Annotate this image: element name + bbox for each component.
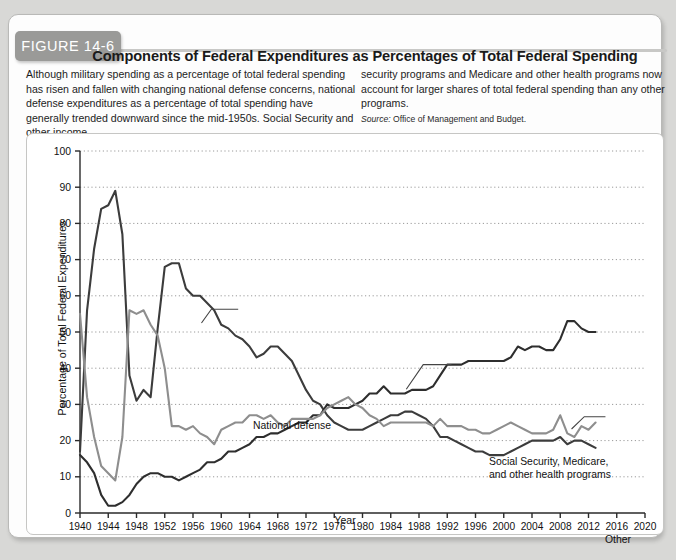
source-text: Office of Management and Budget.	[393, 114, 526, 124]
svg-text:90: 90	[59, 182, 71, 193]
source-label: Source:	[361, 114, 391, 124]
figure-page: FIGURE 14-6 Components of Federal Expend…	[0, 0, 676, 560]
annotation-other: Other	[605, 534, 631, 547]
svg-text:100: 100	[54, 146, 72, 157]
y-axis-title: Percentage of Total Federal Expenditures	[56, 213, 68, 423]
svg-text:20: 20	[59, 435, 71, 446]
chart-panel: 0102030405060708090100194019441948195219…	[26, 133, 664, 535]
annotation-leader-2	[572, 417, 606, 429]
figure-caption-left: Although military spending as a percenta…	[26, 67, 356, 140]
svg-text:10: 10	[59, 471, 71, 482]
figure-card: FIGURE 14-6 Components of Federal Expend…	[8, 14, 662, 538]
series-line-0	[80, 191, 596, 455]
figure-source: Source: Office of Management and Budget.	[361, 112, 676, 127]
figure-title: Components of Federal Expenditures as Pe…	[65, 48, 665, 64]
figure-caption-right: security programs and Medicare and other…	[361, 67, 676, 126]
annotation-national-defense: National defense	[253, 420, 331, 433]
annotation-social-security: Social Security, Medicare, and other hea…	[489, 456, 611, 481]
x-axis-title: Year	[27, 514, 663, 526]
figure-caption-right-text: security programs and Medicare and other…	[361, 68, 665, 109]
series-line-2	[80, 310, 596, 480]
